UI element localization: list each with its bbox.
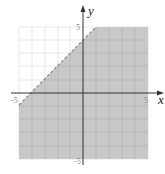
x-axis-label: x: [157, 92, 164, 107]
tick-ymax: 5: [76, 23, 80, 32]
tick-xmax: 5: [144, 96, 148, 105]
inequality-graph: x y -5 5 5 -5: [0, 0, 165, 174]
tick-xmin: -5: [11, 96, 18, 105]
y-axis-arrow-icon: [81, 5, 86, 12]
tick-ymin: -5: [74, 157, 81, 166]
y-axis-label: y: [86, 3, 94, 18]
